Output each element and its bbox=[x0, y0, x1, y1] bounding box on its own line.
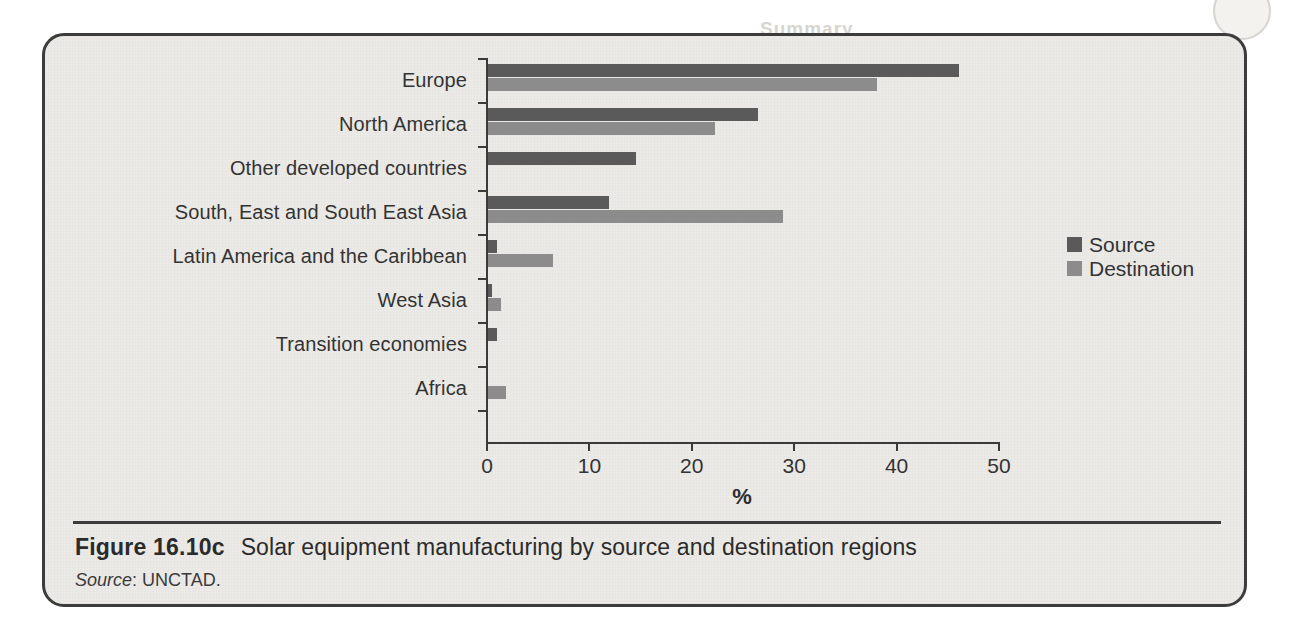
figure-source-line: Source: UNCTAD. bbox=[75, 570, 1215, 591]
legend-item: Source bbox=[1067, 234, 1194, 255]
x-axis-tick-label: 50 bbox=[987, 454, 1010, 478]
bar-group bbox=[488, 322, 1008, 366]
figure-source-label: Source bbox=[75, 570, 132, 590]
bars-layer bbox=[488, 58, 1008, 442]
legend-label: Source bbox=[1089, 234, 1156, 255]
y-axis-tick bbox=[478, 410, 487, 412]
x-axis-tick bbox=[691, 442, 693, 451]
y-axis-label: South, East and South East Asia bbox=[45, 190, 478, 234]
bar-source bbox=[488, 240, 497, 253]
y-axis-label: Africa bbox=[45, 366, 478, 410]
bar-source bbox=[488, 284, 492, 297]
bar-source bbox=[488, 196, 609, 209]
x-axis-tick-label: 20 bbox=[680, 454, 703, 478]
y-axis-tick bbox=[478, 102, 487, 104]
bar-group bbox=[488, 146, 1008, 190]
y-axis-label: West Asia bbox=[45, 278, 478, 322]
bar-group bbox=[488, 58, 1008, 102]
y-axis-tick bbox=[478, 234, 487, 236]
x-axis-tick bbox=[896, 442, 898, 451]
caption-main-line: Figure 16.10c Solar equipment manufactur… bbox=[75, 534, 1215, 561]
y-axis-label: Latin America and the Caribbean bbox=[45, 234, 478, 278]
legend-label: Destination bbox=[1089, 258, 1194, 279]
bar-source bbox=[488, 64, 959, 77]
bar-source bbox=[488, 152, 636, 165]
bar-destination bbox=[488, 122, 715, 135]
legend-swatch-icon bbox=[1067, 261, 1082, 276]
legend-swatch-icon bbox=[1067, 237, 1082, 252]
bar-source bbox=[488, 328, 497, 341]
y-axis-label: Transition economies bbox=[45, 322, 478, 366]
y-axis-category-labels: EuropeNorth AmericaOther developed count… bbox=[45, 58, 478, 410]
bar-destination bbox=[488, 386, 506, 399]
x-axis-tick bbox=[793, 442, 795, 451]
x-axis-line bbox=[486, 442, 998, 444]
x-axis-tick-label: 0 bbox=[481, 454, 493, 478]
y-axis-label: North America bbox=[45, 102, 478, 146]
x-axis-tick-label: 10 bbox=[578, 454, 601, 478]
bar-group bbox=[488, 278, 1008, 322]
x-axis-title: % bbox=[732, 484, 752, 510]
y-axis-tick bbox=[478, 278, 487, 280]
figure-title: Solar equipment manufacturing by source … bbox=[241, 534, 917, 561]
bar-group bbox=[488, 366, 1008, 410]
figure-source-value: : UNCTAD. bbox=[132, 570, 221, 590]
y-axis-tick bbox=[478, 58, 487, 60]
figure-number: Figure 16.10c bbox=[75, 534, 225, 561]
bar-group bbox=[488, 102, 1008, 146]
bar-group bbox=[488, 234, 1008, 278]
figure-caption: Figure 16.10c Solar equipment manufactur… bbox=[75, 534, 1215, 591]
bar-destination bbox=[488, 298, 501, 311]
legend-item: Destination bbox=[1067, 258, 1194, 279]
bar-group bbox=[488, 190, 1008, 234]
caption-divider bbox=[73, 521, 1221, 524]
x-axis-tick bbox=[486, 442, 488, 451]
y-axis-tick bbox=[478, 146, 487, 148]
x-axis-tick-label: 30 bbox=[783, 454, 806, 478]
x-axis-tick bbox=[588, 442, 590, 451]
y-axis-tick bbox=[478, 366, 487, 368]
figure-panel: EuropeNorth AmericaOther developed count… bbox=[42, 33, 1247, 607]
chart-legend: SourceDestination bbox=[1067, 234, 1194, 282]
y-axis-label: Europe bbox=[45, 58, 478, 102]
x-axis-tick-label: 40 bbox=[885, 454, 908, 478]
y-axis-label: Other developed countries bbox=[45, 146, 478, 190]
y-axis-tick bbox=[478, 322, 487, 324]
bar-destination bbox=[488, 78, 877, 91]
bar-source bbox=[488, 108, 758, 121]
bar-destination bbox=[488, 210, 783, 223]
bar-destination bbox=[488, 254, 553, 267]
x-axis-tick bbox=[998, 442, 1000, 451]
y-axis-tick bbox=[478, 190, 487, 192]
chart-plot-area: EuropeNorth AmericaOther developed count… bbox=[45, 36, 1247, 506]
